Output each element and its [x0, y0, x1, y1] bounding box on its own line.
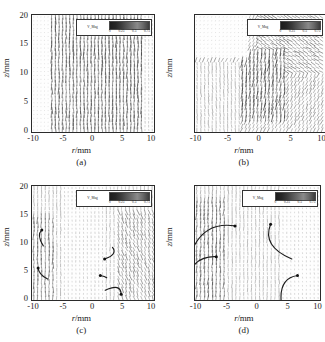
panel-c-ytick: 5: [6, 265, 28, 275]
panel-d-xtick: 10: [313, 301, 322, 311]
panel-b: z/mm V_Mag 0 0.25 0.5 0.75 -10: [163, 0, 325, 171]
panel-d-xtick: 5: [285, 301, 289, 311]
panel-c-ytick: 0: [6, 293, 28, 303]
panel-d-caption: (d): [163, 325, 325, 335]
panel-c-xtick: 0: [90, 301, 94, 311]
panel-d-y-axis-label: z/mm: [163, 227, 173, 246]
panel-a-ytick: 20: [3, 10, 28, 20]
panel-d: z/mm V_Mag 0 0.25 0.5 0.75: [163, 171, 325, 342]
panel-d-legend-title: V_Mag: [243, 191, 274, 206]
panel-d-legend-scale: 0 0.25 0.5 0.75: [274, 191, 317, 206]
panel-b-xtick: 5: [288, 133, 292, 143]
panel-a: z/mm 0 5 10 15 20 V_Mag 0 0.25 0.: [0, 0, 163, 171]
panel-a-plot-area: V_Mag 0 0.25 0.5 0.75: [31, 14, 155, 133]
panel-c-ytick: 15: [3, 209, 28, 219]
panel-b-xtick: 10: [317, 133, 325, 143]
panel-a-ytick: 5: [6, 96, 28, 106]
panel-d-legend: V_Mag 0 0.25 0.5 0.75: [242, 190, 318, 207]
panel-b-colorbar-ticks: 0 0.25 0.5 0.75: [280, 30, 321, 34]
panel-c-xtick: 10: [147, 301, 156, 311]
panel-b-caption: (b): [163, 157, 325, 167]
panel-b-legend: V_Mag 0 0.25 0.5 0.75: [247, 19, 323, 36]
panel-a-ytick: 15: [3, 38, 28, 48]
panel-a-xtick: 0: [90, 133, 94, 143]
panel-c-plot-area: V_Mag 0 0.25 0.5 0.75: [31, 185, 155, 301]
panel-b-x-axis-label: r/mm: [163, 145, 325, 155]
panel-c-legend-title: V_Mag: [77, 191, 108, 206]
panel-c-xtick: -10: [27, 301, 38, 311]
panel-d-xtick: -5: [223, 301, 230, 311]
panel-b-xtick: -10: [190, 133, 201, 143]
panel-b-xtick: -5: [224, 133, 231, 143]
figure-panel-grid: z/mm 0 5 10 15 20 V_Mag 0 0.25 0.: [0, 0, 325, 342]
panel-d-colorbar-ticks: 0 0.25 0.5 0.75: [275, 201, 316, 205]
panel-c-x-axis-label: r/mm: [0, 313, 163, 323]
panel-a-xtick: 5: [120, 133, 124, 143]
panel-a-ytick: 10: [3, 67, 28, 77]
panel-b-legend-scale: 0 0.25 0.5 0.75: [279, 20, 322, 35]
panel-d-x-axis-label: r/mm: [163, 313, 325, 323]
panel-a-caption: (a): [0, 157, 163, 167]
panel-b-y-axis-label: z/mm: [163, 58, 173, 77]
panel-c-legend: V_Mag 0 0.25 0.5 0.75: [76, 190, 152, 207]
panel-d-plot-area: V_Mag 0 0.25 0.5 0.75: [194, 185, 321, 301]
panel-a-ytick: 0: [6, 125, 28, 135]
panel-d-xtick: -10: [190, 301, 201, 311]
panel-c-caption: (c): [0, 325, 163, 335]
panel-c-legend-scale: 0 0.25 0.5 0.75: [108, 191, 151, 206]
panel-a-legend-scale: 0 0.25 0.5 0.75: [108, 20, 151, 35]
panel-c: z/mm 0 5 10 15 20 V_Mag 0 0.25 0.5 0.75: [0, 171, 163, 342]
panel-c-colorbar-ticks: 0 0.25 0.5 0.75: [109, 201, 150, 205]
panel-a-x-axis-label: r/mm: [0, 145, 163, 155]
panel-b-legend-title: V_Mag: [248, 20, 279, 35]
panel-b-plot-area: V_Mag 0 0.25 0.5 0.75: [194, 14, 325, 133]
panel-c-ytick: 20: [3, 181, 28, 191]
panel-a-xtick: -10: [27, 133, 38, 143]
panel-b-xtick: 0: [256, 133, 260, 143]
panel-c-ytick: 10: [3, 237, 28, 247]
panel-a-xtick: 10: [147, 133, 156, 143]
panel-a-xtick: -5: [59, 133, 66, 143]
panel-c-xtick: -5: [59, 301, 66, 311]
panel-a-legend: V_Mag 0 0.25 0.5 0.75: [76, 19, 152, 36]
panel-a-colorbar-ticks: 0 0.25 0.5 0.75: [109, 30, 150, 34]
panel-d-xtick: 0: [254, 301, 258, 311]
panel-a-legend-title: V_Mag: [77, 20, 108, 35]
panel-c-xtick: 5: [120, 301, 124, 311]
